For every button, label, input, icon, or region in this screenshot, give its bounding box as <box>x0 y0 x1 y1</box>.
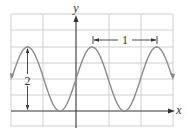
y-axis-label: y <box>72 1 79 15</box>
arrow-up-icon <box>26 48 29 54</box>
period-label: 1 <box>122 33 128 47</box>
arrow-down-icon <box>26 105 29 111</box>
axes <box>11 15 175 128</box>
x-axis-label: x <box>175 103 182 117</box>
x-axis-arrow-icon <box>168 109 175 114</box>
arrow-left-icon <box>94 38 100 41</box>
peak-to-trough-label: 2 <box>25 74 31 88</box>
y-axis-arrow-icon <box>74 15 79 22</box>
sinusoid-graph: 2 1 y x <box>0 0 187 137</box>
arrow-right-icon <box>151 38 157 41</box>
grid <box>11 14 173 126</box>
